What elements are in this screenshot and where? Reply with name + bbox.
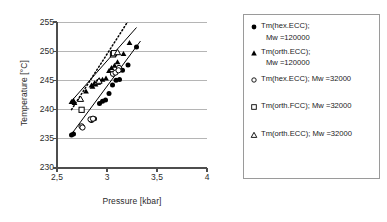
data-point <box>121 51 127 56</box>
legend-entry-tm-hex-ecc-32000: Tm(hex.ECC); Mw =32000 <box>249 74 375 87</box>
data-point <box>90 116 95 121</box>
filled-circle-icon <box>249 22 259 32</box>
legend-label-second-line: Mw =120000 <box>266 32 375 43</box>
legend-label: Tm(orth.FCC); Mw =32000 <box>261 101 375 112</box>
trendline-lower-solid <box>71 41 141 136</box>
x-axis-ticks <box>57 168 207 172</box>
data-point <box>107 91 112 96</box>
data-point <box>134 45 139 50</box>
legend-entry-tm-orth-ecc-120000: Tm(orth.ECC); Mw =120000 <box>249 47 375 69</box>
data-point <box>103 98 108 103</box>
legend-label: Tm(hex.ECC); <box>261 21 375 32</box>
gridlines <box>57 22 207 139</box>
data-point <box>116 68 121 73</box>
legend-label: Tm(orth.ECC); Mw =32000 <box>261 129 375 140</box>
legend-label: Tm(orth.ECC); <box>261 47 375 58</box>
legend-label: Tm(hex.ECC); Mw =32000 <box>261 74 375 85</box>
data-point <box>127 40 133 45</box>
data-point <box>77 96 83 101</box>
chart-figure: Temperature [°C] Pressure [kbar] 230 235… <box>0 0 387 222</box>
open-triangle-icon <box>249 130 259 140</box>
filled-triangle-icon <box>249 48 259 58</box>
legend-entry-tm-hex-ecc-120000: Tm(hex.ECC); Mw =120000 <box>249 21 375 43</box>
open-circle-icon <box>249 75 259 85</box>
chart-legend: Tm(hex.ECC); Mw =120000 Tm(orth.ECC); Mw… <box>243 14 380 179</box>
axis-lines <box>57 22 207 168</box>
data-point <box>117 77 122 82</box>
data-point <box>79 107 84 112</box>
data-point <box>110 82 115 87</box>
legend-entry-tm-orth-fcc-32000: Tm(orth.FCC); Mw =32000 <box>249 101 375 114</box>
data-point <box>126 63 131 68</box>
data-point <box>115 59 121 64</box>
data-point <box>103 76 109 81</box>
legend-label-second-line: Mw =120000 <box>266 57 375 68</box>
legend-entry-tm-orth-ecc-32000: Tm(orth.ECC); Mw =32000 <box>249 129 375 142</box>
open-square-icon <box>249 102 259 112</box>
y-axis-ticks <box>53 22 57 168</box>
series-tm-hex-ecc-32000-points <box>79 65 122 130</box>
data-point <box>80 125 85 130</box>
data-point <box>71 131 76 136</box>
